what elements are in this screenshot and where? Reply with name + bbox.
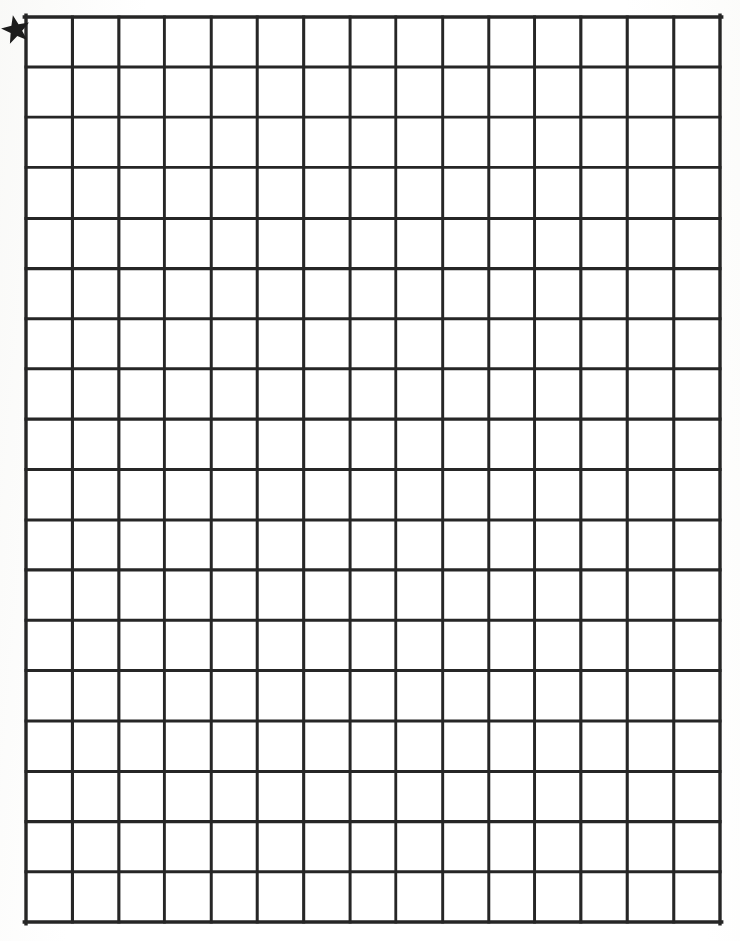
worksheet-page [0,0,740,941]
grid-container[interactable] [20,11,726,928]
grid-svg[interactable] [20,11,726,928]
